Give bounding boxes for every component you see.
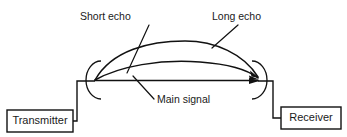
diagram-canvas: Short echo Long echo Main signal Transmi… xyxy=(0,0,347,137)
main-signal-leader-line xyxy=(133,76,154,99)
transmitter-connector-line xyxy=(73,81,95,121)
short-echo-label: Short echo xyxy=(80,10,131,22)
multipath-propagation-diagram: Short echo Long echo Main signal Transmi… xyxy=(0,0,347,137)
long-echo-label: Long echo xyxy=(212,10,261,22)
receiver-box-label: Receiver xyxy=(289,111,333,123)
receiver-connector-line xyxy=(258,81,281,118)
long-echo-path xyxy=(95,41,258,80)
main-signal-label: Main signal xyxy=(157,93,210,105)
short-echo-path xyxy=(95,61,258,80)
long-echo-leader-line xyxy=(212,25,238,48)
transmitter-box-label: Transmitter xyxy=(12,114,68,126)
